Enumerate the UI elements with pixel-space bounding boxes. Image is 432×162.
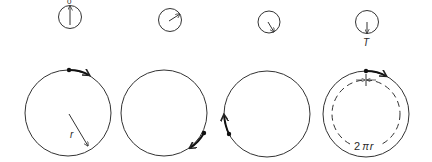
clock-hand-icon <box>268 22 274 32</box>
path-circle <box>25 70 111 156</box>
clock-hand-icon <box>169 14 180 21</box>
circumference-pi: π <box>362 141 369 152</box>
circular-motion-diagram: 0 T r <box>0 0 432 162</box>
radius-label: r <box>70 129 74 140</box>
circumference-num: 2 <box>354 140 360 152</box>
clock-face <box>258 11 280 33</box>
path-circle <box>121 70 207 156</box>
clock-2 <box>159 9 182 32</box>
time-end-label: T <box>363 37 370 48</box>
clock-1: 0 <box>59 0 82 29</box>
path-circle <box>224 71 310 157</box>
clock-4: T <box>356 11 379 49</box>
clock-3 <box>258 11 280 33</box>
time-start-label: 0 <box>67 0 72 6</box>
circle-3 <box>224 71 310 157</box>
circle-2 <box>121 70 207 156</box>
motion-arrow-icon <box>366 71 386 76</box>
circle-4: 2πr <box>323 69 409 157</box>
circle-1: r <box>25 68 111 156</box>
motion-arrow-icon <box>69 70 89 75</box>
motion-arrow-icon <box>224 115 229 134</box>
circumference-dashed-circle <box>332 80 400 148</box>
circumference-label: 2πr <box>354 140 375 152</box>
